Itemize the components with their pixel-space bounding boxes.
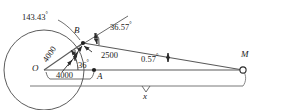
vertex-dot-B [81,41,85,45]
geometry-diagram-figure: 143.43° B 36.57° 4000 36° 2500 O 4000 A … [0,0,302,110]
dimension-label-x: x [143,92,147,101]
arrow-2500 [84,46,92,52]
vertex-dot-M-outer [240,67,246,73]
angle-label-143-43: 143.43° [22,11,48,21]
point-label-B: B [74,26,80,35]
arrow-B-2 [68,52,78,66]
angle-label-36: 36° [78,59,89,69]
point-label-A: A [97,72,103,81]
vertex-dot-A [92,68,96,72]
angle-label-0-57: 0.57° [141,53,158,63]
point-label-O: O [32,64,39,73]
length-label-OA-4000: 4000 [56,71,73,80]
length-label-2500: 2500 [101,51,118,60]
point-label-M: M [241,50,249,59]
angle-label-36-57: 36.57° [110,21,132,31]
